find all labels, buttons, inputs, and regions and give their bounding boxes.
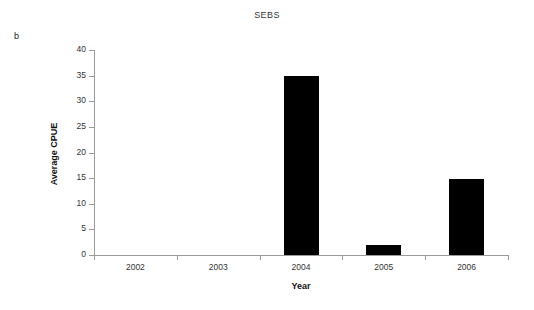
x-axis-tick-label: 2003 [177, 262, 260, 273]
y-axis-tick-label: 5 [81, 223, 86, 234]
x-axis-tick-mark [342, 255, 343, 260]
y-axis-tick-mark [89, 178, 94, 179]
x-axis-tick-mark [260, 255, 261, 260]
y-axis-tick-mark [89, 229, 94, 230]
y-axis-tick-mark [89, 76, 94, 77]
chart-title: SEBS [0, 10, 534, 20]
bar [366, 245, 401, 255]
y-axis-tick-mark [89, 127, 94, 128]
bar [449, 179, 484, 255]
y-axis-tick-mark [89, 50, 94, 51]
x-axis-tick-mark [177, 255, 178, 260]
x-axis-tick-mark [94, 255, 95, 260]
y-axis-tick-label: 0 [81, 249, 86, 260]
x-axis-tick-label: 2005 [342, 262, 425, 273]
y-axis-tick-mark [89, 204, 94, 205]
y-axis-tick-label: 10 [77, 198, 86, 209]
y-axis-tick-label: 35 [77, 70, 86, 81]
x-axis-tick-mark [425, 255, 426, 260]
chart-figure: b SEBS 0510152025303540 2002200320042005… [0, 0, 534, 310]
y-axis-tick-label: 25 [77, 121, 86, 132]
x-axis-tick-mark [508, 255, 509, 260]
y-axis-title-text: Average CPUE [49, 99, 59, 209]
x-axis-title: Year [94, 281, 508, 291]
x-axis-line [94, 255, 509, 256]
bar [284, 76, 319, 255]
x-axis-tick-label: 2004 [260, 262, 343, 273]
y-axis-title: Average CPUE [47, 100, 61, 210]
y-axis-tick-mark [89, 101, 94, 102]
y-axis-tick-mark [89, 153, 94, 154]
y-axis-tick-label: 15 [77, 172, 86, 183]
x-axis-tick-label: 2002 [94, 262, 177, 273]
plot-area: 0510152025303540 [94, 50, 508, 255]
y-axis-tick-label: 40 [77, 44, 86, 55]
y-axis-tick-label: 20 [77, 147, 86, 158]
panel-label: b [14, 31, 19, 42]
x-axis-tick-label: 2006 [425, 262, 508, 273]
y-axis-tick-label: 30 [77, 95, 86, 106]
